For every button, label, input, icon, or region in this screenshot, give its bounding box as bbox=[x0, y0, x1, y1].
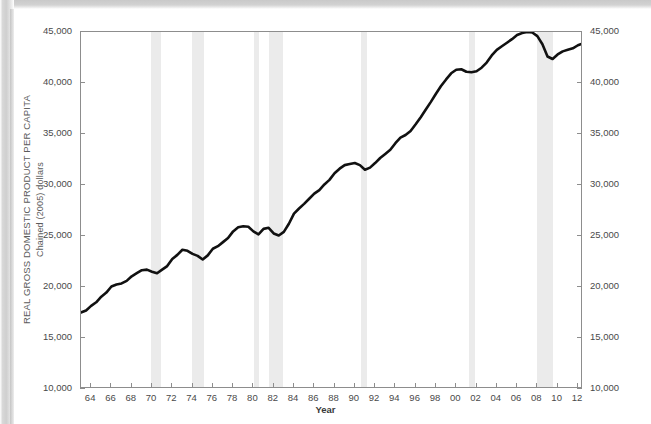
x-tick-label: 08 bbox=[525, 392, 547, 403]
x-axis-title: Year bbox=[0, 404, 651, 415]
x-tick-mark bbox=[110, 383, 111, 388]
y-tick-mark-left bbox=[80, 337, 85, 338]
plot-area bbox=[80, 31, 582, 388]
x-tick-mark bbox=[476, 383, 477, 388]
x-tick-label: 96 bbox=[404, 392, 426, 403]
x-tick-label: 98 bbox=[424, 392, 446, 403]
x-tick-mark bbox=[313, 383, 314, 388]
x-tick-label: 10 bbox=[546, 392, 568, 403]
gdp-per-capita-chart: REAL GROSS DOMESTIC PRODUCT PER CAPITA C… bbox=[0, 0, 651, 424]
y-tick-label-right: 40,000 bbox=[590, 76, 636, 87]
gdp-line-series bbox=[81, 32, 582, 388]
y-tick-label-right: 15,000 bbox=[590, 331, 636, 342]
x-tick-mark bbox=[192, 383, 193, 388]
x-tick-mark bbox=[577, 383, 578, 388]
x-tick-mark bbox=[252, 383, 253, 388]
x-tick-label: 64 bbox=[79, 392, 101, 403]
x-tick-mark bbox=[232, 383, 233, 388]
x-tick-mark bbox=[394, 383, 395, 388]
x-tick-label: 72 bbox=[160, 392, 182, 403]
y-tick-mark-right bbox=[577, 184, 582, 185]
y-tick-mark-left bbox=[80, 388, 85, 389]
y-tick-label-left: 10,000 bbox=[28, 382, 72, 393]
y-tick-label-left: 15,000 bbox=[28, 331, 72, 342]
y-tick-mark-right bbox=[577, 286, 582, 287]
y-axis-title-line2: Chained (2005) dollars bbox=[33, 40, 46, 380]
x-tick-mark bbox=[435, 383, 436, 388]
y-tick-mark-right bbox=[577, 82, 582, 83]
y-tick-label-right: 45,000 bbox=[590, 25, 636, 36]
x-tick-mark bbox=[334, 383, 335, 388]
x-tick-label: 94 bbox=[383, 392, 405, 403]
y-tick-mark-right bbox=[577, 235, 582, 236]
gdp-line-path bbox=[81, 32, 582, 313]
x-tick-label: 74 bbox=[181, 392, 203, 403]
y-tick-mark-left bbox=[80, 82, 85, 83]
x-tick-label: 06 bbox=[505, 392, 527, 403]
y-tick-label-right: 20,000 bbox=[590, 280, 636, 291]
x-tick-mark bbox=[151, 383, 152, 388]
y-tick-label-right: 30,000 bbox=[590, 178, 636, 189]
y-tick-label-left: 45,000 bbox=[28, 25, 72, 36]
x-tick-mark bbox=[496, 383, 497, 388]
x-tick-mark bbox=[354, 383, 355, 388]
y-tick-label-left: 40,000 bbox=[28, 76, 72, 87]
x-tick-label: 90 bbox=[343, 392, 365, 403]
y-tick-label-right: 35,000 bbox=[590, 127, 636, 138]
x-tick-label: 78 bbox=[221, 392, 243, 403]
y-tick-mark-right bbox=[577, 337, 582, 338]
x-tick-label: 80 bbox=[241, 392, 263, 403]
x-tick-label: 86 bbox=[302, 392, 324, 403]
y-tick-label-left: 30,000 bbox=[28, 178, 72, 189]
x-tick-label: 88 bbox=[323, 392, 345, 403]
y-tick-mark-left bbox=[80, 184, 85, 185]
x-tick-mark bbox=[455, 383, 456, 388]
y-axis-title-line1: REAL GROSS DOMESTIC PRODUCT PER CAPITA bbox=[21, 40, 34, 380]
x-tick-label: 70 bbox=[140, 392, 162, 403]
x-tick-mark bbox=[90, 383, 91, 388]
y-tick-label-left: 35,000 bbox=[28, 127, 72, 138]
x-tick-mark bbox=[293, 383, 294, 388]
y-tick-mark-right bbox=[577, 31, 582, 32]
x-tick-mark bbox=[415, 383, 416, 388]
y-tick-label-left: 20,000 bbox=[28, 280, 72, 291]
x-tick-label: 68 bbox=[120, 392, 142, 403]
x-tick-mark bbox=[273, 383, 274, 388]
y-axis-title: REAL GROSS DOMESTIC PRODUCT PER CAPITA C… bbox=[21, 40, 46, 380]
y-tick-mark-left bbox=[80, 31, 85, 32]
y-tick-label-right: 10,000 bbox=[590, 382, 636, 393]
x-tick-label: 82 bbox=[262, 392, 284, 403]
x-tick-mark bbox=[171, 383, 172, 388]
y-tick-label-left: 25,000 bbox=[28, 229, 72, 240]
x-tick-mark bbox=[536, 383, 537, 388]
x-tick-mark bbox=[212, 383, 213, 388]
y-tick-label-right: 25,000 bbox=[590, 229, 636, 240]
y-tick-mark-left bbox=[80, 235, 85, 236]
x-tick-label: 84 bbox=[282, 392, 304, 403]
y-tick-mark-left bbox=[80, 286, 85, 287]
y-tick-mark-left bbox=[80, 133, 85, 134]
y-tick-mark-right bbox=[577, 133, 582, 134]
x-tick-mark bbox=[374, 383, 375, 388]
x-tick-mark bbox=[131, 383, 132, 388]
x-tick-label: 00 bbox=[444, 392, 466, 403]
x-tick-mark bbox=[557, 383, 558, 388]
x-tick-label: 04 bbox=[485, 392, 507, 403]
x-tick-label: 12 bbox=[566, 392, 588, 403]
x-tick-mark bbox=[516, 383, 517, 388]
x-tick-label: 66 bbox=[99, 392, 121, 403]
x-tick-label: 76 bbox=[201, 392, 223, 403]
x-tick-label: 92 bbox=[363, 392, 385, 403]
x-tick-label: 02 bbox=[465, 392, 487, 403]
